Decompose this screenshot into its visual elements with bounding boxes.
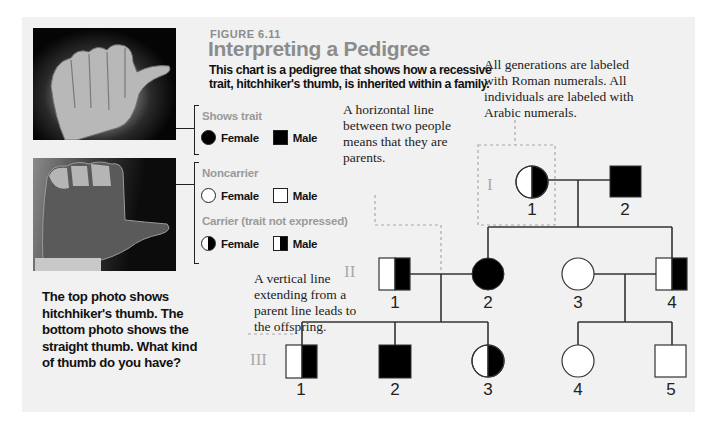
generation-label-II: II: [344, 262, 355, 282]
individual-I-1: [516, 166, 548, 198]
individual-label: 3: [473, 380, 503, 400]
individual-label: 4: [657, 293, 687, 313]
individual-label: 1: [517, 200, 547, 220]
individual-label: 2: [473, 293, 503, 313]
individual-label: 4: [563, 380, 593, 400]
individual-II-2: [472, 258, 504, 290]
individual-III-2: [379, 345, 411, 378]
individual-III-4: [562, 345, 594, 377]
individual-III-5: [655, 345, 686, 377]
individual-label: 1: [286, 380, 316, 400]
generation-label-III: III: [250, 350, 267, 370]
individual-label: 3: [563, 293, 593, 313]
generation-label-I: I: [487, 175, 493, 195]
individual-III-1: [286, 345, 317, 378]
individual-I-2: [610, 166, 641, 197]
individual-label: 1: [380, 293, 410, 313]
individual-II-4: [656, 258, 687, 290]
individual-III-3: [472, 345, 504, 377]
individual-II-3: [562, 258, 594, 290]
individual-label: 5: [656, 380, 686, 400]
individual-label: 2: [610, 200, 640, 220]
individual-label: 2: [380, 380, 410, 400]
individual-II-1: [379, 258, 410, 290]
